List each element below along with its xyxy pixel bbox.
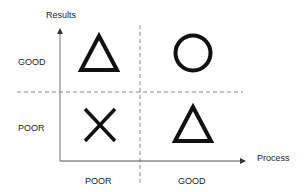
x-axis-label: Process: [257, 154, 290, 163]
y-tick-poor: POOR: [18, 124, 45, 133]
y-tick-good: GOOD: [18, 58, 46, 67]
y-axis-label: Results: [46, 11, 76, 20]
quadrant-diagram: [0, 0, 307, 192]
x-tick-poor: POOR: [85, 177, 112, 186]
x-tick-good: GOOD: [178, 177, 206, 186]
axes: [60, 29, 245, 161]
triangle-icon: [175, 107, 211, 141]
cross-icon: [85, 109, 115, 141]
quadrant-symbols: [81, 36, 211, 142]
triangle-icon: [81, 36, 117, 70]
circle-icon: [176, 36, 211, 71]
